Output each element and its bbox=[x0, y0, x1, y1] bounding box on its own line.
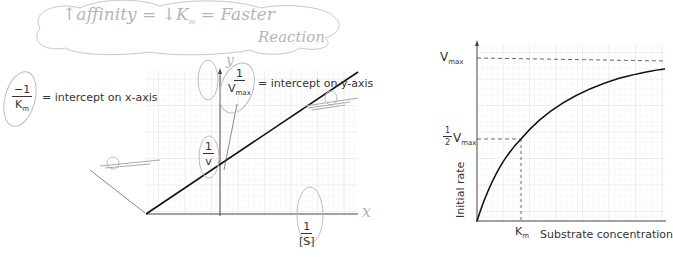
annotation-line2: Reaction bbox=[258, 28, 325, 46]
y-axis-den: v bbox=[205, 154, 212, 167]
vmax-label: Vmax bbox=[440, 50, 463, 66]
annotation-km-sub: m bbox=[189, 18, 196, 26]
x-axis-den: [S] bbox=[299, 234, 315, 247]
vmax-v: V bbox=[228, 82, 236, 95]
vmax-sub: max bbox=[448, 58, 463, 66]
km-label: Km bbox=[515, 225, 529, 240]
half-vmax-label: Vmax bbox=[453, 131, 476, 147]
x-intercept-pointer bbox=[90, 170, 145, 213]
km-sub: m bbox=[22, 105, 29, 113]
x-intercept-fraction: −1 Km bbox=[12, 84, 32, 113]
annotation-line1: ↑affinity = ↓Km = Faster bbox=[62, 4, 275, 26]
y-intercept-text: = intercept on y-axis bbox=[258, 77, 373, 90]
mm-y-axis-label: Initial rate bbox=[454, 162, 467, 218]
hand-y-label: y bbox=[226, 52, 234, 68]
x-intercept-text: = intercept on x-axis bbox=[42, 91, 157, 104]
x-intercept-den: Km bbox=[15, 97, 29, 113]
x-intercept-num: −1 bbox=[12, 84, 32, 97]
mm-x-axis-label: Substrate concentration bbox=[540, 228, 673, 241]
hand-x-label: x bbox=[362, 202, 371, 221]
vmax-main: V bbox=[440, 50, 448, 64]
half-fraction: 1 2 bbox=[443, 127, 452, 147]
half-vmax-sub: max bbox=[461, 139, 476, 147]
vmax-sub: max bbox=[236, 89, 251, 97]
half-vmax-main: V bbox=[453, 131, 461, 145]
y-intercept-fraction: 1 Vmax bbox=[228, 68, 251, 97]
mm-y-arrow-icon bbox=[475, 40, 479, 46]
y-intercept-num: 1 bbox=[234, 68, 245, 81]
x-axis-num: 1 bbox=[301, 221, 312, 234]
mm-grid bbox=[477, 44, 665, 221]
annotation-faster-text: = Faster bbox=[201, 4, 275, 24]
km-sub-r: m bbox=[522, 232, 529, 240]
half-den: 2 bbox=[445, 137, 450, 147]
half-num: 1 bbox=[443, 127, 452, 137]
y-axis-label: 1 v bbox=[203, 141, 214, 167]
annotation-affinity-text: ↑affinity = ↓K bbox=[62, 4, 189, 24]
y-axis-num: 1 bbox=[203, 141, 214, 154]
y-intercept-den: Vmax bbox=[228, 81, 251, 97]
x-axis-label: 1 [S] bbox=[299, 221, 315, 247]
